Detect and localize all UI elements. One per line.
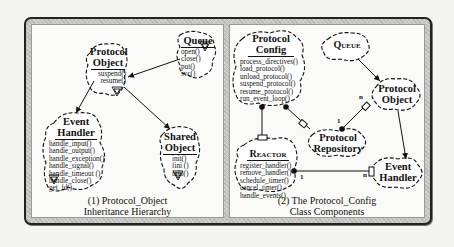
class-title: Object bbox=[91, 57, 125, 70]
method: run_event_loop() bbox=[240, 96, 304, 103]
class-queue: Queue open() close() put() svc() bbox=[181, 35, 215, 79]
caption-line: Class Components bbox=[230, 206, 424, 217]
method: resume() bbox=[90, 78, 126, 85]
caption-line: (1) Protocol_Object bbox=[32, 195, 223, 206]
association-box bbox=[362, 102, 370, 110]
queue-to-protocol-object-arrow bbox=[128, 59, 180, 77]
protocol-object-to-shared-object-arrow bbox=[124, 87, 170, 129]
multiplicity-label: 1 bbox=[337, 117, 341, 125]
class-title: Config bbox=[248, 44, 294, 57]
figure-frame: Protocol Object suspend() resume() Queue… bbox=[24, 17, 432, 225]
class-protocol-object: Protocol Object bbox=[376, 83, 418, 105]
class-title: Shared bbox=[162, 131, 198, 142]
multiplicity-label: n bbox=[359, 93, 363, 101]
caption-left: (1) Protocol_Object Inheritance Hierarch… bbox=[32, 195, 223, 217]
panel-inheritance-hierarchy: Protocol Object suspend() resume() Queue… bbox=[31, 24, 224, 218]
association-box bbox=[369, 167, 374, 176]
class-shared-object: Shared Object init() fini () info() bbox=[162, 131, 198, 178]
class-event-handler: Event Handler bbox=[376, 161, 420, 183]
multiplicity-label: n bbox=[363, 171, 367, 179]
association-box bbox=[258, 135, 267, 140]
class-title: Protocol bbox=[90, 46, 126, 57]
aggregation-dot bbox=[339, 126, 345, 132]
caption-line: (2) The Protocol_Config bbox=[230, 195, 424, 206]
class-title: Object bbox=[163, 142, 197, 155]
class-reactor: Reactor register_handler() remove_handle… bbox=[238, 143, 298, 200]
panel-class-components: Protocol Config process_directives() loa… bbox=[229, 24, 425, 218]
association-box bbox=[299, 120, 308, 128]
class-title: Handler bbox=[55, 127, 96, 140]
caption-line: Inheritance Hierarchy bbox=[32, 206, 223, 217]
class-title: Protocol bbox=[238, 33, 304, 44]
class-title: Event bbox=[376, 161, 420, 172]
class-title: Queue bbox=[326, 39, 368, 50]
class-title: Event bbox=[46, 116, 106, 127]
class-protocol-repository: Protocol Repository bbox=[310, 132, 366, 154]
class-title: Queue bbox=[181, 35, 214, 48]
method: svc() bbox=[181, 71, 215, 78]
class-title: Object bbox=[376, 94, 418, 105]
queue-to-protocol-object-arrow bbox=[358, 59, 380, 81]
caption-right: (2) The Protocol_Config Class Components bbox=[230, 195, 424, 217]
class-protocol-object: Protocol Object suspend() resume() bbox=[90, 46, 126, 86]
class-title: Repository bbox=[310, 143, 366, 154]
multiplicity-label: 1 bbox=[300, 173, 304, 181]
class-title: Reactor bbox=[247, 148, 288, 161]
method: get_fd() bbox=[49, 185, 106, 192]
protocol-object-to-event-handler-arrow bbox=[398, 111, 406, 159]
aggregation-dot bbox=[283, 104, 289, 110]
class-title: Protocol bbox=[376, 83, 418, 94]
method: info() bbox=[172, 171, 198, 178]
class-queue: Queue bbox=[326, 39, 368, 50]
class-event-handler: Event Handler handle_input() handle_outp… bbox=[46, 116, 106, 193]
class-protocol-config: Protocol Config process_directives() loa… bbox=[238, 33, 304, 103]
class-title: Protocol bbox=[310, 132, 366, 143]
class-title: Handler bbox=[376, 172, 420, 183]
aggregation-dot bbox=[259, 104, 265, 110]
